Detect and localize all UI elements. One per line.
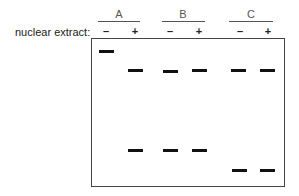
band-c-minus-upper [231, 69, 246, 72]
lane-sign-b-plus: + [191, 25, 207, 37]
group-label-b: B [161, 8, 205, 20]
band-b-plus-upper [192, 69, 207, 72]
band-b-plus-lower [192, 149, 207, 152]
gel-frame [91, 38, 285, 187]
lane-sign-b-minus: – [162, 25, 178, 37]
lane-sign-a-plus: + [127, 25, 143, 37]
group-label-a: A [97, 8, 141, 20]
band-a-plus-upper [128, 69, 143, 72]
group-line-a [98, 21, 140, 22]
band-a-plus-lower [128, 149, 143, 152]
band-b-minus-upper [163, 70, 178, 73]
lane-sign-c-plus: + [260, 25, 276, 37]
group-line-b [162, 21, 205, 22]
group-label-c: C [229, 8, 273, 20]
band-c-plus-lowest [260, 169, 275, 172]
band-c-minus-lowest [232, 169, 247, 172]
band-b-minus-lower [163, 149, 178, 152]
group-line-c [229, 21, 273, 22]
band-c-plus-upper [260, 69, 275, 72]
lane-sign-c-minus: – [232, 25, 248, 37]
lane-sign-a-minus: – [98, 25, 114, 37]
band-a-minus-high [99, 50, 114, 53]
nuclear-extract-label: nuclear extract: [15, 26, 90, 38]
